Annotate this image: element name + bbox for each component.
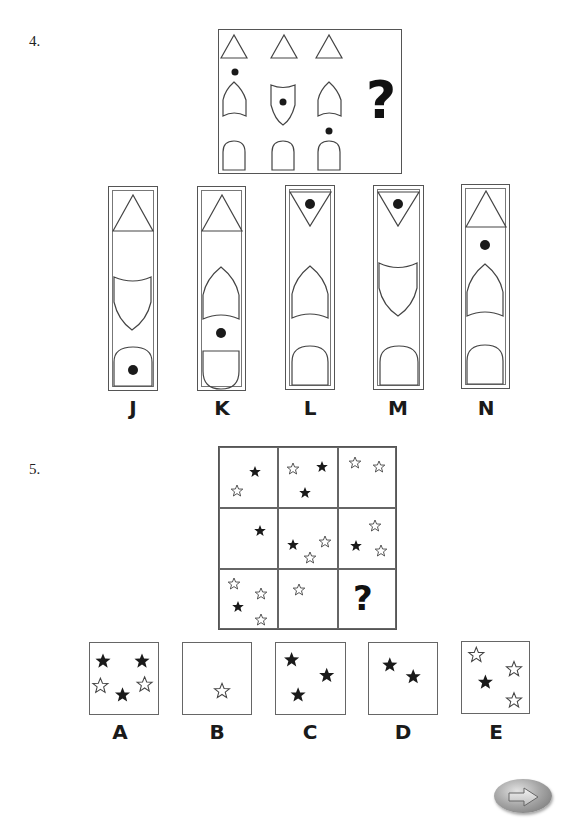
option-c-stars — [276, 643, 347, 716]
option-j-figures — [109, 187, 159, 392]
option-e-label: E — [476, 720, 516, 744]
option-e-stars — [462, 642, 531, 715]
option-n-label: N — [466, 396, 506, 420]
grid-cell-3-3-missing: ? — [338, 569, 396, 629]
star-grid-q5: ? — [218, 446, 397, 630]
grid-cell-3-1 — [219, 569, 278, 629]
question-number-5: 5. — [29, 461, 40, 478]
option-b-label: B — [197, 720, 237, 744]
option-e[interactable] — [461, 641, 530, 714]
option-j-label: J — [113, 396, 153, 420]
option-l-figures — [286, 186, 336, 391]
option-l[interactable] — [285, 185, 335, 390]
option-k-label: K — [202, 396, 242, 420]
option-d[interactable] — [368, 642, 438, 715]
grid-cell-2-3 — [338, 508, 396, 569]
grid-cell-3-2 — [278, 569, 338, 629]
option-c[interactable] — [275, 642, 346, 715]
option-m[interactable] — [373, 185, 424, 390]
option-j[interactable] — [108, 186, 158, 391]
matrix-panel-q4: ? — [218, 29, 402, 174]
grid-cell-2-2 — [278, 508, 338, 569]
grid-cell-2-1 — [219, 508, 278, 569]
arrow-right-icon — [508, 787, 540, 807]
option-a[interactable] — [89, 642, 159, 715]
option-b-stars — [183, 643, 253, 716]
grid-cell-1-2 — [278, 447, 338, 508]
option-d-label: D — [383, 720, 423, 744]
option-d-stars — [369, 643, 439, 716]
option-k[interactable] — [197, 186, 246, 391]
missing-piece-question-mark: ? — [366, 70, 396, 130]
option-k-figures — [198, 187, 247, 392]
option-m-figures — [374, 186, 425, 391]
option-c-label: C — [290, 720, 330, 744]
grid-cell-1-3 — [338, 447, 396, 508]
question-number-4: 4. — [29, 33, 40, 50]
option-n[interactable] — [461, 184, 510, 389]
next-page-button[interactable] — [494, 779, 552, 813]
option-n-figures — [462, 185, 511, 390]
missing-piece-question-mark: ? — [353, 578, 373, 618]
option-l-label: L — [290, 396, 330, 420]
grid-cell-1-1 — [219, 447, 278, 508]
option-m-label: M — [378, 396, 418, 420]
option-a-label: A — [100, 720, 140, 744]
option-a-stars — [90, 643, 160, 716]
option-b[interactable] — [182, 642, 252, 715]
